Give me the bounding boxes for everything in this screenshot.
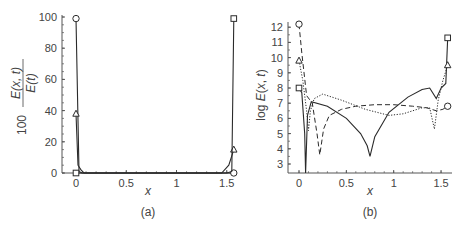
y-tick-label: 0	[51, 167, 57, 179]
series-line-circle-marker	[76, 19, 234, 173]
panel-a-axes: 02040608010000.511.5	[39, 11, 236, 189]
y-tick-label: 40	[45, 105, 57, 117]
y-tick-label: 100	[39, 11, 57, 23]
panel-b-chart: 345678910111200.511.5 x (b) log E(x, t)	[254, 21, 452, 219]
square-marker	[231, 16, 237, 22]
y-tick-label: 10	[271, 52, 283, 64]
y-tick-label: 4	[277, 143, 283, 155]
panel-a-ylabel-numerator: E(x, t)	[9, 67, 23, 99]
series-line-square-marker	[76, 19, 234, 173]
y-tick-label: 3	[277, 158, 283, 170]
y-tick-label: 60	[45, 73, 57, 85]
panel-b-ylabel: log E(x, t)	[254, 69, 268, 120]
y-tick-label: 20	[45, 136, 57, 148]
y-tick-label: 12	[271, 21, 283, 33]
square-marker	[73, 170, 79, 176]
series-line-dashdot-triangle	[299, 61, 448, 131]
panel-b-caption: (b)	[363, 205, 378, 219]
x-tick-label: 0.5	[339, 177, 354, 189]
panel-a-xlabel: x	[144, 184, 152, 198]
triangle-marker	[296, 57, 302, 63]
panel-b-xlabel: x	[366, 184, 374, 198]
x-tick-label: 1	[173, 177, 179, 189]
y-tick-label: 7	[277, 97, 283, 109]
x-tick-label: 1.5	[219, 177, 234, 189]
series-line-triangle-marker	[76, 114, 234, 173]
figure: 02040608010000.511.5 x (a) 100 E(x, t) E…	[0, 0, 462, 233]
series-line-dashed-circle	[299, 24, 448, 155]
panel-a-caption: (a)	[141, 205, 156, 219]
panel-a-ylabel: 100 E(x, t) E(t)	[9, 59, 38, 135]
x-tick-label: 0.5	[119, 177, 134, 189]
square-marker	[296, 85, 302, 91]
y-tick-label: 11	[272, 36, 283, 48]
square-marker	[445, 35, 451, 41]
y-tick-label: 8	[277, 82, 283, 94]
y-tick-label: 6	[277, 112, 283, 124]
series-line-solid-square	[299, 38, 448, 173]
panel-a-chart: 02040608010000.511.5 x (a) 100 E(x, t) E…	[9, 11, 237, 219]
panel-b-axes: 345678910111200.511.5	[271, 21, 452, 189]
circle-marker	[73, 15, 79, 21]
panel-a-ylabel-denominator: E(t)	[24, 73, 38, 92]
panel-b-series	[296, 21, 451, 173]
y-tick-label: 5	[277, 128, 283, 140]
panel-a-ylabel-factor: 100	[15, 115, 29, 135]
x-tick-label: 0	[73, 177, 79, 189]
triangle-marker	[444, 62, 450, 68]
panel-a-series	[73, 15, 237, 176]
y-tick-label: 80	[45, 42, 57, 54]
y-tick-label: 9	[277, 67, 283, 79]
circle-marker	[444, 103, 450, 109]
x-tick-label: 0	[296, 177, 302, 189]
circle-marker	[296, 21, 302, 27]
x-tick-label: 1	[391, 177, 397, 189]
x-tick-label: 1.5	[433, 177, 448, 189]
